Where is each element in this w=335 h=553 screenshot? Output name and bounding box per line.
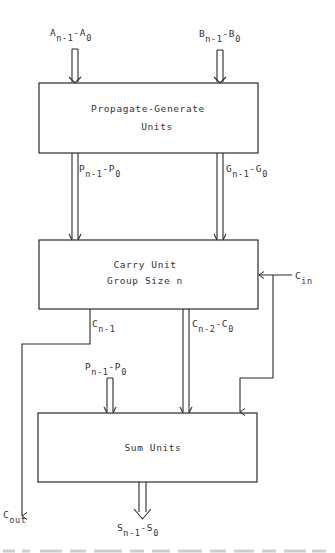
- a-input-label: An-1-A0: [50, 27, 92, 43]
- b-input-label: Bn-1-B0: [199, 28, 241, 44]
- adder-block-diagram: Propagate-Generate Units Carry Unit Grou…: [0, 0, 335, 553]
- c-out-label: Cout: [3, 509, 26, 525]
- p-bus-sum-label: Pn-1-P0: [85, 361, 127, 377]
- g-bus-label: Gn-1-G0: [226, 163, 268, 179]
- propagate-generate-label-2: Units: [141, 121, 173, 132]
- a-input-bus-arrow: [69, 49, 81, 83]
- c-n-minus-1-label: Cn-1: [92, 318, 115, 334]
- carry-unit-block: Carry Unit Group Size n: [39, 240, 258, 309]
- propagate-generate-block: Propagate-Generate Units: [39, 83, 258, 153]
- propagate-generate-label: Propagate-Generate: [91, 103, 205, 114]
- c-bus-arrow: [180, 309, 192, 413]
- g-bus-arrow: [214, 153, 226, 240]
- s-output-label: Sn-1-S0: [117, 522, 159, 538]
- c-bus-label: Cn-2-C0: [192, 318, 234, 334]
- b-input-bus-arrow: [214, 50, 226, 83]
- sum-units-block: Sum Units: [38, 413, 257, 482]
- s-output-bus-arrow: [134, 482, 151, 519]
- c-in-label: Cin: [295, 270, 313, 286]
- p-bus-sum-arrow: [104, 378, 116, 413]
- carry-unit-label: Carry Unit: [113, 259, 176, 270]
- sum-units-label: Sum Units: [125, 442, 182, 453]
- p-bus-label: Pn-1-P0: [79, 163, 121, 179]
- carry-unit-group-size-label: Group Size n: [107, 275, 183, 286]
